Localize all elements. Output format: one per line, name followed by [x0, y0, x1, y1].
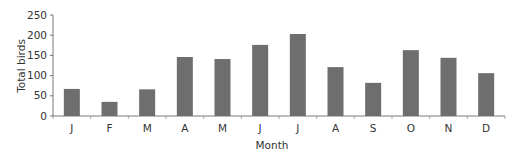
bar: [290, 34, 306, 116]
y-axis: 050100150200250: [27, 9, 53, 122]
x-tick-label: J: [69, 122, 73, 134]
y-axis-title: Total birds: [15, 39, 27, 94]
x-tick-label: N: [445, 122, 453, 134]
x-tick-label: J: [258, 122, 262, 134]
x-axis: JFMAMJJASOND: [53, 116, 505, 134]
bar: [328, 67, 344, 116]
x-tick-label: O: [407, 122, 415, 134]
bar: [139, 89, 155, 116]
x-tick-label: J: [295, 122, 299, 134]
x-tick-label: D: [482, 122, 490, 134]
bar-chart: 050100150200250 JFMAMJJASOND Total birds…: [0, 0, 515, 154]
bar: [252, 45, 268, 116]
x-tick-label: M: [143, 122, 152, 134]
bars: [64, 34, 494, 116]
y-tick-label: 0: [40, 110, 47, 122]
bar: [215, 59, 231, 116]
bar: [64, 89, 80, 116]
bar: [441, 58, 457, 116]
y-tick-label: 150: [27, 49, 47, 61]
x-tick-label: F: [106, 122, 112, 134]
x-axis-title: Month: [256, 139, 289, 151]
y-tick-label: 50: [34, 89, 47, 101]
bar: [478, 73, 494, 116]
x-tick-label: S: [370, 122, 377, 134]
y-tick-label: 100: [27, 69, 47, 81]
bar: [403, 50, 419, 116]
x-tick-label: M: [218, 122, 227, 134]
y-tick-label: 200: [27, 29, 47, 41]
bar: [102, 102, 118, 116]
y-tick-label: 250: [27, 9, 47, 21]
x-tick-label: A: [332, 122, 340, 134]
x-tick-label: A: [181, 122, 189, 134]
bar: [365, 83, 381, 116]
bar: [177, 57, 193, 116]
